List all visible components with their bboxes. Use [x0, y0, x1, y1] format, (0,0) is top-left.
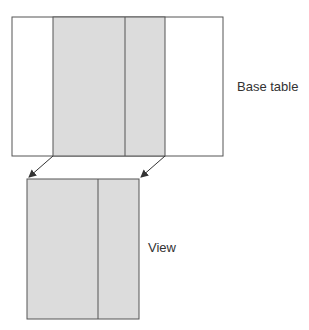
base-table-label: Base table — [237, 79, 298, 94]
arrow-right — [141, 156, 165, 177]
base-table-selected-columns — [53, 17, 165, 156]
diagram-canvas — [0, 0, 309, 330]
arrow-left — [29, 156, 53, 177]
view-table — [27, 179, 139, 319]
view-label: View — [148, 240, 176, 255]
base-table — [12, 17, 223, 156]
